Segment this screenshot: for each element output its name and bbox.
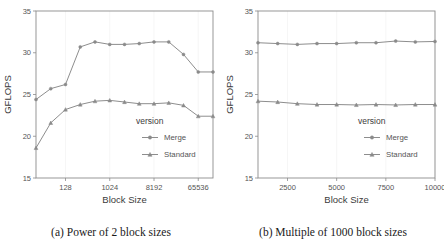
data-point-merge-4 [335, 42, 338, 45]
ytick-label-35: 35 [23, 7, 31, 16]
caption-a: (a) Power of 2 block sizes [0, 215, 222, 250]
data-point-merge-2 [296, 43, 299, 46]
caption-b: (b) Multiple of 1000 block sizes [222, 215, 444, 250]
chart-a-canvas: 15202530351281024819265536Block SizeGFLO… [0, 0, 222, 215]
x-axis-title-b: Block Size [324, 194, 368, 205]
xtick-label-8192: 8192 [146, 183, 163, 192]
data-point-merge-7 [138, 42, 141, 45]
legend-marker-merge [148, 136, 151, 139]
data-point-merge-12 [212, 70, 215, 73]
data-point-merge-1 [49, 87, 52, 90]
ytick-label-30: 30 [23, 48, 31, 57]
ytick-label-25: 25 [23, 90, 31, 99]
xtick-label-5000: 5000 [328, 183, 345, 192]
chart-b-canvas: 152025303525005000750010000Block SizeGFL… [222, 0, 444, 215]
ytick-label-30: 30 [245, 48, 253, 57]
data-point-merge-5 [355, 41, 358, 44]
data-point-merge-8 [414, 40, 417, 43]
ytick-label-20: 20 [23, 132, 31, 141]
data-point-merge-0 [257, 41, 260, 44]
data-point-merge-1 [276, 42, 279, 45]
data-point-merge-10 [182, 53, 185, 56]
data-point-merge-6 [123, 43, 126, 46]
x-axis-title-a: Block Size [102, 194, 146, 205]
legend-label-standard: Standard [164, 150, 196, 159]
y-axis-title-b: GFLOPS [224, 75, 235, 114]
data-point-merge-11 [197, 70, 200, 73]
data-point-merge-7 [394, 40, 397, 43]
xtick-label-65536: 65536 [188, 183, 209, 192]
xtick-label-1024: 1024 [101, 183, 118, 192]
y-axis-title-a: GFLOPS [2, 75, 13, 114]
figure-two-panel-chart: 15202530351281024819265536Block SizeGFLO… [0, 0, 444, 250]
legend-title-b: version [358, 116, 386, 126]
data-point-merge-3 [316, 42, 319, 45]
legend-label-merge: Merge [386, 133, 408, 142]
legend-label-standard: Standard [386, 150, 418, 159]
data-point-merge-4 [94, 40, 97, 43]
data-point-merge-5 [108, 43, 111, 46]
ytick-label-20: 20 [245, 132, 253, 141]
ytick-label-35: 35 [245, 7, 253, 16]
data-point-merge-2 [64, 83, 67, 86]
panels-row: 15202530351281024819265536Block SizeGFLO… [0, 0, 444, 215]
legend-title-a: version [136, 116, 164, 126]
data-point-merge-6 [375, 41, 378, 44]
ytick-label-15: 15 [23, 174, 31, 183]
data-point-merge-0 [35, 98, 38, 101]
panel-b-multiple-of-1000: 152025303525005000750010000Block SizeGFL… [222, 0, 444, 215]
xtick-label-10000: 10000 [425, 183, 444, 192]
data-point-merge-9 [167, 40, 170, 43]
xtick-label-2500: 2500 [279, 183, 296, 192]
legend-marker-merge [370, 136, 373, 139]
panel-a-power-of-2: 15202530351281024819265536Block SizeGFLO… [0, 0, 222, 215]
caption-row: (a) Power of 2 block sizes (b) Multiple … [0, 215, 444, 250]
data-point-merge-8 [153, 40, 156, 43]
legend-label-merge: Merge [164, 133, 186, 142]
data-point-merge-3 [79, 45, 82, 48]
xtick-label-7500: 7500 [377, 183, 394, 192]
data-point-merge-9 [434, 40, 437, 43]
ytick-label-25: 25 [245, 90, 253, 99]
ytick-label-15: 15 [245, 174, 253, 183]
xtick-label-128: 128 [59, 183, 72, 192]
